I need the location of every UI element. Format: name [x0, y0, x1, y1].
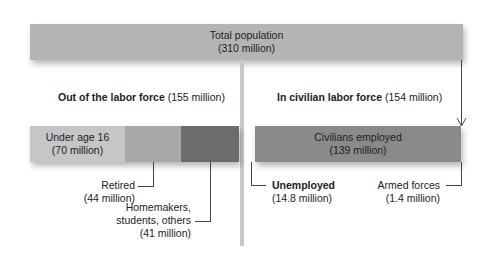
- left-group-value: (155 million): [168, 91, 225, 103]
- left-group-heading: Out of the labor force (155 million): [58, 91, 225, 104]
- armed-forces-title: Armed forces: [378, 179, 440, 192]
- arrow-line: [461, 60, 462, 125]
- segment-retired: [125, 126, 181, 162]
- retired-title: Retired: [84, 179, 135, 192]
- employed-title: Civilians employed: [314, 131, 402, 144]
- right-group-title: In civilian labor force: [277, 91, 382, 103]
- unemployed-title: Unemployed: [272, 179, 335, 192]
- under-16-title: Under age 16: [46, 131, 110, 144]
- employed-value: (139 million): [329, 144, 386, 157]
- homemakers-line1: Homemakers,: [116, 201, 191, 214]
- center-divider: [240, 60, 244, 246]
- homemakers-leader-horizontal: [195, 221, 211, 222]
- armed-leader-horizontal: [446, 185, 462, 186]
- segment-under-16: Under age 16 (70 million): [30, 126, 125, 162]
- homemakers-label: Homemakers, students, others (41 million…: [116, 201, 191, 240]
- unemployed-label: Unemployed (14.8 million): [272, 179, 335, 205]
- total-population-value: (310 million): [218, 42, 275, 55]
- unemployed-leader-vertical: [251, 162, 252, 186]
- civilians-employed-bar: Civilians employed (139 million): [255, 126, 461, 162]
- unemployed-value: (14.8 million): [272, 192, 335, 205]
- total-population-bar: Total population (310 million): [30, 24, 463, 60]
- homemakers-value: (41 million): [116, 227, 191, 240]
- homemakers-line2: students, others: [116, 214, 191, 227]
- unemployed-leader-horizontal: [251, 185, 266, 186]
- armed-leader-vertical: [461, 162, 462, 186]
- under-16-value: (70 million): [52, 144, 103, 157]
- segment-homemakers: [181, 126, 239, 162]
- armed-forces-label: Armed forces (1.4 million): [378, 179, 440, 205]
- retired-leader-horizontal: [138, 186, 154, 187]
- left-group-title: Out of the labor force: [58, 91, 165, 103]
- right-group-value: (154 million): [385, 91, 442, 103]
- out-of-labor-force-bar: Under age 16 (70 million): [30, 126, 239, 162]
- homemakers-leader-vertical: [210, 162, 211, 222]
- right-group-heading: In civilian labor force (154 million): [277, 91, 442, 104]
- armed-forces-value: (1.4 million): [378, 192, 440, 205]
- retired-leader-vertical: [153, 162, 154, 187]
- total-population-title: Total population: [210, 29, 284, 42]
